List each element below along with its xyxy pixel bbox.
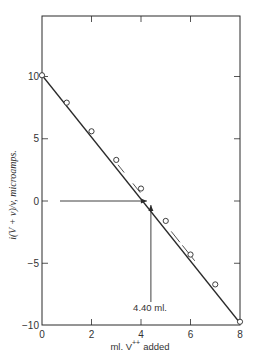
data-point [188,252,193,257]
endpoint-annotation [60,199,153,303]
y-tick-label: −10 [22,320,39,331]
y-tick-label: −5 [28,258,40,269]
axis-ticks: 02468−10−50510 [22,16,243,340]
data-point [213,282,218,287]
x-tick-label: 6 [188,329,194,340]
endpoint-label: 4.40 ml. [133,302,167,313]
data-point [237,319,242,324]
y-tick-label: 5 [33,133,39,144]
x-tick-label: 2 [89,329,95,340]
plot-frame [42,16,240,325]
x-axis-label: ml. V++added [110,339,169,352]
x-tick-label: 0 [39,329,45,340]
y-axis-label: i(V + v)/v, microamps. [7,150,19,240]
data-point [39,73,44,78]
data-point [163,218,168,223]
data-point [89,129,94,134]
x-tick-label: 8 [237,329,243,340]
y-tick-label: 0 [33,196,39,207]
data-point [138,186,143,191]
titration-chart: 02468−10−50510 ml. V++added i(V + v)/v, … [0,0,255,362]
y-tick-label: 10 [28,71,40,82]
data-point [114,157,119,162]
data-point [64,100,69,105]
